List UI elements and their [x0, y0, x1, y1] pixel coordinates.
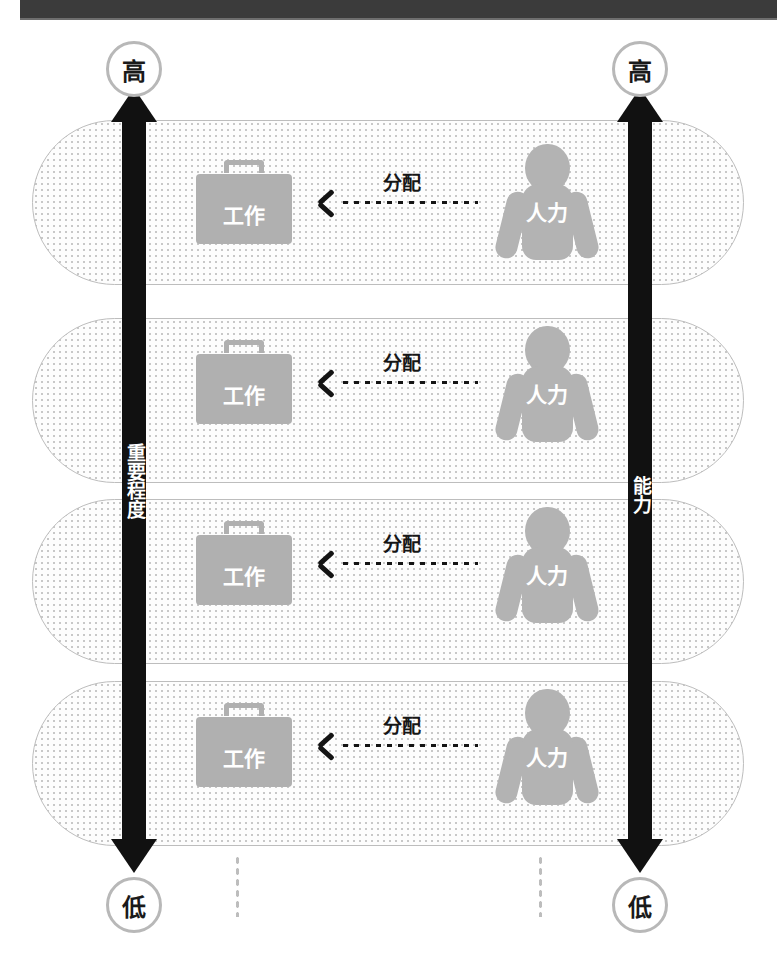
work-label: 工作 — [223, 379, 265, 409]
arrow-head-down-icon — [617, 839, 663, 873]
work-label: 工作 — [223, 199, 265, 229]
work-label: 工作 — [223, 560, 265, 590]
allocation-label: 分配 — [318, 529, 486, 556]
arrow-head-left-icon — [318, 733, 336, 757]
allocation-label: 分配 — [318, 711, 486, 738]
people-icon: 人力 — [495, 144, 599, 260]
ability-low-cap: 低 — [612, 877, 668, 933]
dotted-line-icon — [340, 742, 478, 749]
people-label: 人力 — [495, 559, 599, 589]
ability-axis: 能力 — [617, 88, 663, 873]
work-icon: 工作 — [196, 160, 292, 244]
ability-high-cap: 高 — [612, 41, 668, 97]
people-label: 人力 — [495, 196, 599, 226]
briefcase-body-icon: 工作 — [196, 535, 292, 605]
work-icon: 工作 — [196, 340, 292, 424]
people-label: 人力 — [495, 741, 599, 771]
briefcase-body-icon: 工作 — [196, 717, 292, 787]
people-icon: 人力 — [495, 689, 599, 805]
dotted-line-icon — [340, 560, 478, 567]
top-title-band — [20, 0, 777, 18]
work-label: 工作 — [223, 742, 265, 772]
arrow-head-left-icon — [318, 370, 336, 394]
importance-low-cap: 低 — [106, 877, 162, 933]
continuation-dots-right — [538, 855, 543, 917]
briefcase-body-icon: 工作 — [196, 174, 292, 244]
arrow-head-down-icon — [111, 839, 157, 873]
allocation-label: 分配 — [318, 348, 486, 375]
allocation-arrow: 分配 — [318, 168, 486, 220]
importance-axis-label: 重要程度 — [122, 443, 146, 519]
work-icon: 工作 — [196, 521, 292, 605]
importance-high-cap: 高 — [106, 41, 162, 97]
allocation-arrow: 分配 — [318, 348, 486, 400]
work-icon: 工作 — [196, 703, 292, 787]
diagram-canvas: 工作 分配 人力 工作 分配 人力 工作 分配 — [0, 0, 777, 977]
allocation-arrow: 分配 — [318, 711, 486, 763]
people-icon: 人力 — [495, 326, 599, 442]
ability-axis-label: 能力 — [628, 476, 652, 514]
continuation-dots-left — [235, 855, 240, 917]
briefcase-body-icon: 工作 — [196, 354, 292, 424]
allocation-arrow: 分配 — [318, 529, 486, 581]
dotted-line-icon — [340, 199, 478, 206]
people-icon: 人力 — [495, 507, 599, 623]
allocation-label: 分配 — [318, 168, 486, 195]
importance-axis: 重要程度 — [111, 88, 157, 873]
people-label: 人力 — [495, 378, 599, 408]
dotted-line-icon — [340, 379, 478, 386]
arrow-head-left-icon — [318, 190, 336, 214]
arrow-head-left-icon — [318, 551, 336, 575]
